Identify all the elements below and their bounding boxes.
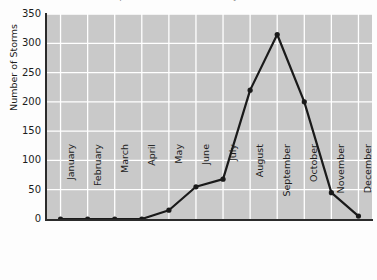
- x-tick-label: September: [281, 144, 292, 224]
- x-tick-label: August: [254, 144, 265, 224]
- x-tick-label: April: [146, 144, 157, 224]
- x-tick-label: October: [308, 144, 319, 224]
- x-tick-label: February: [92, 144, 103, 224]
- x-tick-label: January: [65, 144, 76, 224]
- x-tick-label: November: [335, 144, 346, 224]
- x-tick-label: December: [362, 144, 373, 224]
- x-tick-label: July: [227, 144, 238, 224]
- x-tick-label: May: [173, 144, 184, 224]
- chart-figure: Tropical storm occurrence by month Numbe…: [0, 0, 377, 280]
- x-tick-label: June: [200, 144, 211, 224]
- x-tick-label: March: [119, 144, 130, 224]
- x-tick-labels: JanuaryFebruaryMarchAprilMayJuneJulyAugu…: [0, 0, 377, 280]
